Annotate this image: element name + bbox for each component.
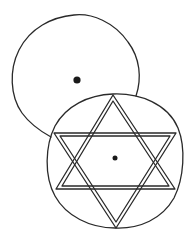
- sketch-svg: [0, 0, 194, 240]
- diagram-canvas: [0, 0, 194, 240]
- hexagram-up-triangle: [56, 95, 175, 189]
- upper-center-dot: [73, 76, 80, 83]
- lower-circle: [47, 94, 183, 228]
- hexagram-down-triangle: [54, 133, 176, 228]
- lower-center-dot: [113, 156, 118, 161]
- upper-circle: [12, 15, 139, 137]
